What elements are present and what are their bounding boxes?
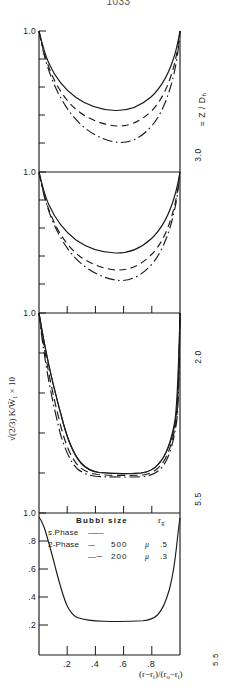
legend-row-1-line-sample: —— — [88, 527, 103, 538]
panel-4-yticks — [39, 513, 48, 625]
figure-container: 1033 — [0, 0, 237, 694]
legend-row-two-phase-500: 2-Phase --- 500 μ .5 — [48, 539, 188, 551]
legend-row-3-line-sample: —·− — [88, 551, 102, 562]
panel-1-right-label-sub: h — [200, 92, 207, 96]
panel-2-frame — [39, 172, 180, 313]
panel-4-ytick-label-2: .8 — [4, 536, 36, 546]
legend-header-rg-sub: g — [161, 519, 164, 526]
panel-1-frame — [39, 31, 180, 172]
panel-1-right-label: = Z / Dh — [197, 80, 208, 138]
panel-3-ytick-label-1: 1.0 — [4, 308, 36, 318]
legend-row-1-name: s.Phase — [48, 527, 78, 538]
panel-3-curve-single-phase — [39, 313, 180, 473]
panel-2-ytick-label-1: 1.0 — [4, 167, 36, 177]
legend-row-2-unit: μ — [145, 539, 149, 550]
panel-3-right-label: 2.0 — [193, 337, 203, 377]
panel-4-ytick-label-1: 1.0 — [4, 508, 36, 518]
panel-boundary-xticks — [67, 306, 152, 513]
panel-4-ytick-label-3: .6 — [4, 564, 36, 574]
legend-row-3-rg: .3 — [160, 551, 167, 562]
xaxis-end-label: 5.5 — [211, 645, 220, 675]
panel-4-right-label: 5.5 — [193, 479, 203, 519]
panel-4-ytick-label-5: .2 — [4, 620, 36, 630]
panel-3-curve-two-phase-500 — [39, 313, 180, 475]
legend-row-two-phase-200: —·− 200 μ .3 — [48, 551, 188, 563]
yaxis-label-text: √(2/3) K/W̄₁ × 10 — [7, 377, 17, 441]
legend-row-3-size: 200 — [111, 551, 127, 562]
legend-header-rg: rg — [158, 515, 165, 528]
legend-row-2-size: 500 — [111, 539, 127, 550]
xaxis-tick-label-4: .8 — [140, 659, 162, 669]
legend-row-single-phase: s.Phase —— — [48, 527, 188, 539]
panel-1-ytick-label-1: 1.0 — [4, 26, 36, 36]
yaxis-label: √(2/3) K/W̄₁ × 10 — [7, 363, 17, 455]
panel-3-curve-two-phase-200 — [39, 313, 180, 477]
legend-row-2-name: 2-Phase — [48, 539, 79, 550]
legend-row-2-rg: .5 — [160, 539, 167, 550]
legend-row-3-unit: μ — [145, 551, 149, 562]
xaxis-ticks — [67, 646, 152, 655]
panel-1-right-label-text: = Z / D — [197, 96, 207, 126]
xaxis-tick-label-3: .6 — [112, 659, 134, 669]
panel-1-curve-single-phase — [39, 31, 180, 111]
panel-2-curve-two-phase-200 — [39, 172, 180, 281]
xaxis-label: (r−ri)/(ro−ri) — [139, 669, 183, 680]
legend-header-row: Bubbl size rg — [48, 515, 188, 527]
xaxis-tick-label-1: .2 — [56, 659, 78, 669]
legend: Bubbl size rg s.Phase —— 2-Phase --- 500… — [48, 515, 188, 563]
xaxis-label-part4: ) — [180, 669, 183, 679]
xaxis-label-part1: (r−r — [139, 669, 153, 679]
xaxis-label-part2: )/(r — [155, 669, 167, 679]
xaxis-label-part3: −r — [170, 669, 178, 679]
panel-2-right-label: 3.0 — [193, 135, 203, 175]
panel-1-curve-two-phase-500 — [39, 31, 180, 126]
xaxis-tick-label-2: .4 — [84, 659, 106, 669]
legend-row-2-line-sample: --- — [88, 539, 95, 550]
panel-1-curve-two-phase-200 — [39, 31, 180, 143]
legend-header-bubble-size: Bubbl size — [76, 515, 128, 526]
panel-4-ytick-label-4: .4 — [4, 592, 36, 602]
panel-3-yticks — [39, 313, 46, 473]
panel-2-curve-single-phase — [39, 172, 180, 253]
